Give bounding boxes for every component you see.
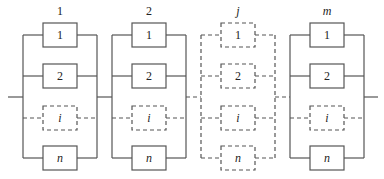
subsystem-label: m [323,4,332,18]
component-label: 2 [324,69,330,83]
component-label: i [236,111,239,125]
component-label: i [147,111,150,125]
component-label: n [324,151,330,165]
component-label: 1 [146,28,152,42]
component-label: 2 [235,69,241,83]
subsystem-label: j [234,4,240,18]
component-label: 2 [57,69,63,83]
subsystem-label: 2 [146,4,152,18]
component-label: i [325,111,328,125]
component-label: 1 [235,28,241,42]
reliability-block-diagram: 112in212inj12inm12in [0,0,384,179]
component-label: n [146,151,152,165]
component-label: 1 [57,28,63,42]
component-label: n [57,151,63,165]
component-label: i [58,111,61,125]
component-label: 2 [146,69,152,83]
component-label: n [235,151,241,165]
component-label: 1 [324,28,330,42]
subsystem-label: 1 [57,4,63,18]
